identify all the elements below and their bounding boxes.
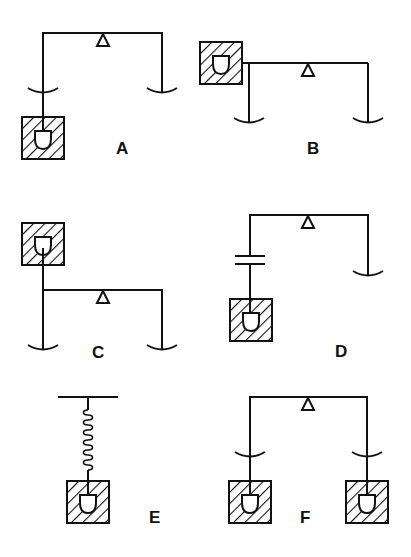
- panel-b: [200, 42, 383, 123]
- weight-box-icon: [200, 42, 242, 84]
- figure-drawing: [0, 0, 411, 557]
- fulcrum-icon: [97, 34, 109, 46]
- panel-e: [58, 397, 118, 523]
- fulcrum-icon: [302, 398, 314, 410]
- fulcrum-icon: [302, 216, 314, 228]
- panel-label-c: C: [92, 344, 104, 361]
- panel-label-f: F: [300, 509, 310, 526]
- panel-c: [22, 223, 177, 350]
- fulcrum-icon: [97, 291, 109, 303]
- panel-label-d: D: [335, 343, 347, 360]
- panel-label-b: B: [307, 140, 319, 157]
- spring-icon: [84, 410, 93, 470]
- fulcrum-icon: [302, 64, 314, 76]
- panel-label-e: E: [149, 509, 160, 526]
- figure-canvas: A B C D E F: [0, 0, 411, 557]
- panel-label-a: A: [116, 140, 128, 157]
- panel-d: [230, 215, 383, 341]
- panel-a: [22, 33, 177, 159]
- panel-f: [229, 397, 388, 523]
